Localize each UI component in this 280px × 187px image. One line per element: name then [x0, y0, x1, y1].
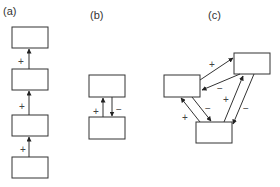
- node-c-right: [234, 53, 270, 74]
- panel-b: (b) + −: [89, 9, 125, 139]
- node-c-left: [164, 75, 200, 97]
- sign-cright-cleft: −: [217, 83, 223, 94]
- sign-b1-b2: −: [116, 104, 122, 115]
- panel-b-label: (b): [90, 9, 103, 21]
- node-a2: [12, 69, 48, 90]
- panel-c: (c) + − − + + −: [164, 9, 270, 143]
- sign-a3-a2: +: [19, 101, 25, 112]
- node-b2: [89, 117, 125, 139]
- sign-cleft-cright: +: [209, 59, 215, 70]
- node-c-bottom: [196, 122, 232, 143]
- sign-cbottom-cleft: +: [182, 112, 188, 123]
- node-a4: [12, 157, 48, 178]
- sign-b2-b1: +: [93, 106, 99, 117]
- sign-cright-cbottom: −: [243, 103, 249, 114]
- sign-cbottom-cright: +: [223, 94, 229, 105]
- arrow-cright-to-cbottom: [233, 74, 254, 124]
- sign-a4-a3: +: [20, 144, 26, 155]
- arrow-cleft-to-cright: [200, 58, 233, 80]
- panel-a: (a) + + +: [3, 5, 48, 178]
- panel-c-label: (c): [208, 9, 221, 21]
- node-a1: [12, 27, 48, 48]
- sign-cleft-cbottom: −: [205, 103, 211, 114]
- panel-a-label: (a): [3, 5, 16, 17]
- node-b1: [89, 75, 125, 97]
- feedback-diagram: (a) + + + (b) + − (c) +: [0, 0, 280, 187]
- node-a3: [12, 115, 48, 136]
- sign-a2-a1: +: [18, 56, 24, 67]
